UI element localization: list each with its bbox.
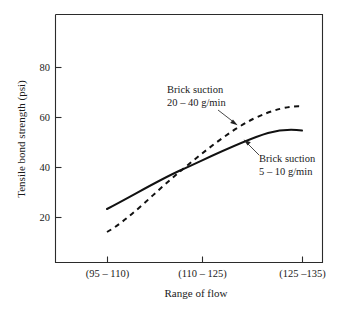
annot-high-suction-line1: Brick suction [167, 84, 224, 95]
y-tick-label-40: 40 [40, 162, 51, 173]
y-tick-label-20: 20 [40, 212, 51, 223]
chart-figure: 20 40 60 80 (95 – 110) (110 – 125) (125 … [0, 0, 342, 318]
annot-high-suction-line2: 20 – 40 g/min [167, 97, 226, 108]
annot-low-suction-line1: Brick suction [259, 153, 316, 164]
x-tick-label-1: (110 – 125) [178, 268, 227, 280]
chart-svg: 20 40 60 80 (95 – 110) (110 – 125) (125 … [0, 0, 342, 318]
annot-low-suction-line2: 5 – 10 g/min [259, 166, 313, 177]
x-axis-tick-labels: (95 – 110) (110 – 125) (125 –135) [86, 268, 326, 280]
x-tick-label-2: (125 –135) [279, 268, 326, 280]
y-tick-label-60: 60 [40, 112, 51, 123]
y-axis-title: Tensile bond strength (psi) [15, 80, 28, 198]
x-tick-label-0: (95 – 110) [86, 268, 130, 280]
y-tick-label-80: 80 [40, 62, 51, 73]
x-axis-title: Range of flow [165, 287, 228, 299]
